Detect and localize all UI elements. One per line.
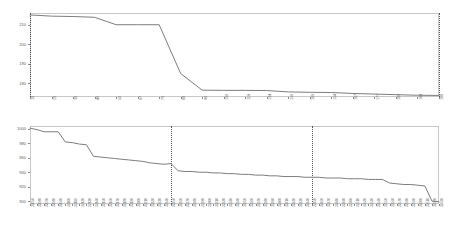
x-axis-tick-label: 32220 [151, 198, 155, 207]
x-axis-tick-label: 32340 [236, 198, 240, 207]
x-axis-tick-label: 32460 [320, 198, 324, 207]
x-axis-tick-label: 32250 [172, 198, 176, 207]
y-axis-tick-label: 940 [6, 170, 26, 175]
x-axis-tick-label: 32140 [95, 198, 99, 207]
chart-panel-bottom: 9009209409609801000320503208032070320803… [0, 0, 462, 236]
x-axis-tick-label: 32300 [208, 198, 212, 207]
x-axis-tick-label: 32400 [278, 198, 282, 207]
x-axis-tick-label: 32130 [88, 198, 92, 207]
x-axis-tick-label: 32190 [130, 198, 134, 207]
x-axis-tick-label: 32560 [391, 198, 395, 207]
x-axis-tick-label: 32240 [165, 198, 169, 207]
x-axis-tick-label: 32160 [109, 198, 113, 207]
y-axis-tick-label: 920 [6, 184, 26, 189]
x-axis-tick-label: 32150 [102, 198, 106, 207]
x-axis-tick-label: 32270 [186, 198, 190, 207]
x-axis-tick-label: 32050 [31, 198, 35, 207]
x-axis-tick-label: 32360 [250, 198, 254, 207]
x-axis-tick-label: 32620 [433, 198, 437, 207]
x-axis-tick-label: 32180 [123, 198, 127, 207]
x-axis-tick-label: 32070 [45, 198, 49, 207]
x-axis-tick-label: 32200 [137, 198, 141, 207]
x-axis-tick-label: 32390 [271, 198, 275, 207]
x-axis-tick-label: 32520 [363, 198, 367, 207]
x-axis-tick-label: 32080 [38, 198, 42, 207]
x-axis-tick-label: 32510 [356, 198, 360, 207]
y-axis-tick-label: 960 [6, 155, 26, 160]
y-axis-tick [28, 129, 30, 130]
x-axis-tick-label: 32440 [306, 198, 310, 207]
y-axis-tick [28, 158, 30, 159]
x-axis-tick-label: 32500 [349, 198, 353, 207]
x-axis-tick-label: 32110 [74, 199, 78, 207]
x-axis-tick-label: 32120 [81, 198, 85, 207]
x-axis-tick-label: 32260 [179, 198, 183, 207]
y-axis-tick [28, 143, 30, 144]
x-axis-tick-label: 32570 [398, 198, 402, 207]
x-axis-tick-label: 32450 [313, 198, 317, 207]
x-axis-tick-label: 32290 [201, 198, 205, 207]
x-axis-tick-label: 32210 [144, 198, 148, 207]
x-axis-tick-label: 32280 [193, 198, 197, 207]
x-axis-tick-label: 32590 [412, 198, 416, 207]
y-axis-tick [28, 201, 30, 202]
x-axis-tick-label: 32470 [327, 198, 331, 207]
x-axis-tick-label: 32370 [257, 198, 261, 207]
x-axis-tick-label: 32040 [59, 198, 63, 207]
x-axis-tick-label: 32540 [377, 198, 381, 207]
x-axis-tick-label: 32380 [264, 198, 268, 207]
x-axis-tick-label: 32580 [405, 198, 409, 207]
x-axis-tick-label: 32480 [335, 198, 339, 207]
x-axis-tick-label: 32490 [342, 198, 346, 207]
x-axis-tick-label: 32230 [158, 198, 162, 207]
y-axis-tick-label: 980 [6, 141, 26, 146]
x-axis-tick-label: 32550 [384, 198, 388, 207]
y-axis-tick-label: 900 [6, 199, 26, 204]
figure-root: 1801902002101020304050677088981001141341… [0, 0, 462, 236]
x-axis-tick-label: 32630 [440, 198, 444, 207]
y-axis-tick [28, 172, 30, 173]
x-axis-tick-label: 32100 [67, 198, 71, 207]
y-axis-tick [28, 187, 30, 188]
reference-vline [171, 126, 172, 204]
x-axis-tick-label: 32310 [215, 198, 219, 207]
x-axis-tick-label: 32170 [116, 198, 120, 207]
x-axis-tick-label: 32410 [285, 198, 289, 207]
x-axis-tick-label: 32610 [426, 198, 430, 207]
x-axis-tick-label: 32350 [243, 198, 247, 207]
reference-vline [312, 126, 313, 204]
y-axis-tick-label: 1000 [6, 126, 26, 131]
x-axis-tick-label: 32430 [299, 198, 303, 207]
x-axis-tick-label: 32320 [222, 198, 226, 207]
plot-area [30, 126, 439, 204]
x-axis-tick-label: 32330 [229, 198, 233, 207]
x-axis-tick-label: 32080 [52, 198, 56, 207]
x-axis-tick-label: 32600 [419, 198, 423, 207]
x-axis-tick-label: 32420 [292, 198, 296, 207]
x-axis-tick-label: 32530 [370, 198, 374, 207]
